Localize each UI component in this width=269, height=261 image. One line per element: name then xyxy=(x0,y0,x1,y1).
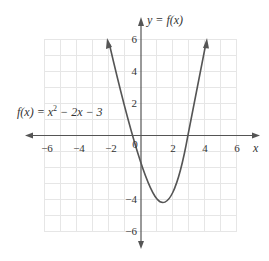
svg-text:4: 4 xyxy=(202,142,208,154)
svg-text:4: 4 xyxy=(132,65,138,77)
svg-text:6: 6 xyxy=(132,33,138,45)
y-axis xyxy=(138,17,144,249)
x-axis-left-arrow-icon xyxy=(25,133,33,139)
x-axis-label: x xyxy=(252,141,259,155)
svg-text:2: 2 xyxy=(132,97,138,109)
svg-text:−6: −6 xyxy=(41,142,53,154)
svg-text:−4: −4 xyxy=(73,142,85,154)
y-axis-label: y = f(x) xyxy=(146,13,183,27)
y-axis-up-arrow-icon xyxy=(138,17,144,26)
svg-text:2: 2 xyxy=(170,142,176,154)
function-label: f(x) = x2 − 2x − 3 xyxy=(17,104,103,119)
svg-text:−6: −6 xyxy=(125,225,137,237)
parabola-curve xyxy=(109,44,205,202)
svg-text:−2: −2 xyxy=(105,142,117,154)
svg-text:6: 6 xyxy=(234,142,240,154)
y-axis-down-arrow-icon xyxy=(138,241,144,249)
svg-text:−4: −4 xyxy=(125,193,137,205)
svg-text:0: 0 xyxy=(132,138,138,150)
function-graph: −6 −4 −2 0 2 4 6 x 6 4 2 −4 −6 y = f(x) … xyxy=(0,0,269,261)
x-axis-right-arrow-icon xyxy=(252,133,260,139)
